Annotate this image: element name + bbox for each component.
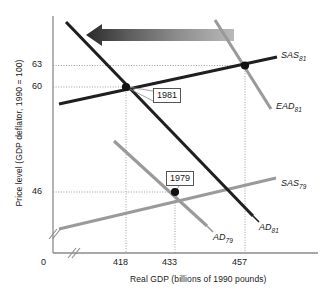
y-tick-label-60: 60 — [32, 81, 42, 91]
curve-label-sas81-text: SAS — [281, 50, 299, 60]
curve-label-ad81-text: AD — [259, 222, 272, 232]
year-callout-1979: 1979 — [166, 171, 194, 186]
curve-label-sas79-sub: 79 — [299, 183, 306, 190]
curve-label-ad79-sub: 79 — [226, 237, 233, 244]
curve-label-ad79-text: AD — [213, 232, 226, 242]
chart-plot-area — [0, 0, 327, 295]
curve-label-ad79: AD79 — [213, 232, 233, 244]
equilibrium-point-1979 — [171, 188, 179, 196]
leftward-shift-arrow-icon — [86, 24, 234, 46]
x-tick-label-457: 457 — [232, 257, 247, 267]
curve-label-sas79-text: SAS — [281, 178, 299, 188]
curve-label-sas81-sub: 81 — [299, 55, 306, 62]
x-tick-label-0: 0 — [41, 257, 46, 267]
x-tick-label-418: 418 — [113, 257, 128, 267]
chart-figure: 63 60 46 0 418 433 457 Price level (GDP … — [0, 0, 327, 295]
equilibrium-point-457-63 — [241, 61, 249, 69]
year-callout-1981: 1981 — [153, 88, 181, 103]
y-axis-title: Price level (GDP deflator, 1990 = 100) — [14, 48, 24, 218]
curve-label-ead81: EAD81 — [276, 101, 302, 113]
x-axis-title: Real GDP (billions of 1990 pounds) — [130, 274, 267, 284]
y-tick-label-46: 46 — [32, 186, 42, 196]
curve-label-sas79: SAS79 — [281, 178, 306, 190]
curve-label-ead81-sub: 81 — [295, 106, 302, 113]
curve-label-sas81: SAS81 — [281, 50, 306, 62]
curve-label-ead81-text: EAD — [276, 101, 295, 111]
curve-label-ad81-sub: 81 — [272, 227, 279, 234]
curve-label-leaders — [207, 216, 259, 232]
y-tick-label-63: 63 — [32, 59, 42, 69]
curve-ad81 — [66, 22, 253, 216]
x-tick-label-433: 433 — [162, 257, 177, 267]
equilibrium-point-1981 — [122, 83, 130, 91]
curve-label-ad81: AD81 — [259, 222, 279, 234]
